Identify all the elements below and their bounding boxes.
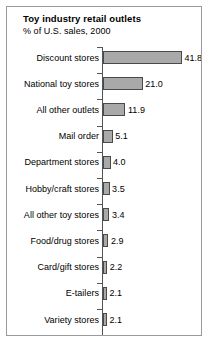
bar-category-label: E-tailers bbox=[66, 288, 99, 298]
bar-value-label: 2.1 bbox=[109, 288, 122, 298]
axis-tick bbox=[97, 335, 102, 336]
bar-row: Food/drug stores2.9 bbox=[7, 229, 202, 255]
bar bbox=[103, 156, 111, 169]
bar-row: Hobby/craft stores3.5 bbox=[7, 177, 202, 203]
bar-category-label: Food/drug stores bbox=[30, 236, 99, 246]
bar bbox=[103, 77, 143, 90]
bar-row: Variety stores2.1 bbox=[7, 308, 202, 334]
bar-value-label: 5.1 bbox=[115, 131, 128, 141]
bar-value-label: 41.8 bbox=[185, 53, 203, 63]
bar-row: Card/gift stores2.2 bbox=[7, 256, 202, 282]
bar-value-label: 2.9 bbox=[111, 236, 124, 246]
bar bbox=[103, 287, 107, 300]
bar-row: Department stores4.0 bbox=[7, 151, 202, 177]
bar bbox=[103, 130, 113, 143]
bar-row: Discount stores41.8 bbox=[7, 46, 202, 72]
bar bbox=[103, 261, 107, 274]
bar bbox=[103, 313, 107, 326]
bar-value-label: 2.2 bbox=[110, 262, 123, 272]
bar bbox=[103, 51, 182, 64]
bar-category-label: Card/gift stores bbox=[37, 262, 99, 272]
bar bbox=[103, 182, 110, 195]
bar bbox=[103, 103, 125, 116]
bar-category-label: Discount stores bbox=[37, 53, 99, 63]
chart-subtitle: % of U.S. sales, 2000 bbox=[23, 26, 111, 36]
bar-category-label: Mail order bbox=[59, 131, 99, 141]
chart-title: Toy industry retail outlets bbox=[23, 13, 141, 24]
plot-area: Discount stores41.8National toy stores21… bbox=[7, 45, 202, 336]
bar-category-label: All other outlets bbox=[36, 105, 99, 115]
bar-value-label: 21.0 bbox=[145, 79, 163, 89]
chart-figure: Toy industry retail outlets % of U.S. sa… bbox=[6, 6, 202, 336]
bar-category-label: Department stores bbox=[24, 157, 99, 167]
bar-value-label: 3.4 bbox=[112, 210, 125, 220]
bar-row: National toy stores21.0 bbox=[7, 72, 202, 98]
bar-category-label: Variety stores bbox=[44, 315, 99, 325]
bar-value-label: 3.5 bbox=[112, 184, 125, 194]
bar-row: All other outlets11.9 bbox=[7, 98, 202, 124]
bar-value-label: 2.1 bbox=[109, 315, 122, 325]
bar-category-label: National toy stores bbox=[24, 79, 99, 89]
bar bbox=[103, 234, 108, 247]
bar-value-label: 4.0 bbox=[113, 157, 126, 167]
bar-row: All other toy stores3.4 bbox=[7, 203, 202, 229]
bar-value-label: 11.9 bbox=[128, 105, 145, 115]
bar-category-label: Hobby/craft stores bbox=[25, 184, 99, 194]
bar-row: E-tailers2.1 bbox=[7, 282, 202, 308]
bar bbox=[103, 208, 109, 221]
bar-row: Mail order5.1 bbox=[7, 125, 202, 151]
bar-category-label: All other toy stores bbox=[24, 210, 99, 220]
